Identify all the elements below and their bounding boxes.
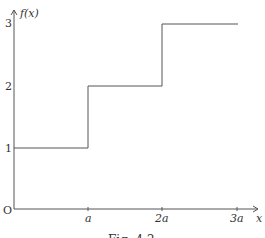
y-tick-label-1: 1 xyxy=(5,142,12,155)
x-axis-label: x xyxy=(256,212,263,225)
x-tick-label-3a: 3a xyxy=(230,212,244,225)
x-tick-label-2a: 2a xyxy=(154,212,169,225)
origin-label: O xyxy=(3,204,12,217)
figure-caption: Fig. 4.2 xyxy=(108,233,155,238)
step-function-plot: O a 2a 3a x 1 2 3 f(x) Fig. 4.2 xyxy=(0,0,265,238)
y-axis-label: f(x) xyxy=(19,7,39,20)
step-line xyxy=(14,24,238,148)
y-tick-label-3: 3 xyxy=(5,17,12,30)
y-tick-label-2: 2 xyxy=(5,80,12,93)
x-tick-label-a: a xyxy=(85,212,92,225)
